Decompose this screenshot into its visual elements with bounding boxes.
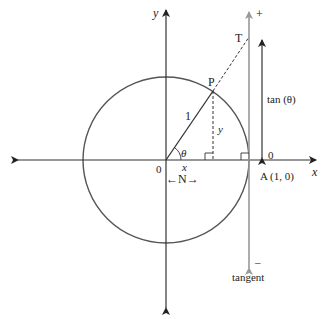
origin-label: 0 xyxy=(156,163,162,175)
tangent-name-label: tangent xyxy=(232,271,264,283)
right-angle-marker-a xyxy=(241,153,249,160)
y-segment-label: y xyxy=(217,123,223,135)
point-p-label: P xyxy=(208,75,215,89)
tangent-plus-label: + xyxy=(256,7,263,21)
x-axis-label: x xyxy=(311,165,318,179)
y-axis-label: y xyxy=(152,6,159,20)
angle-label: θ xyxy=(181,147,187,159)
tan-zero-label: 0 xyxy=(268,149,274,161)
radius-label: 1 xyxy=(185,109,191,123)
point-t-label: T xyxy=(235,31,243,45)
unit-circle-diagram: y x 0 P T 1 θ y x ←N→ A (1, 0) tan (θ) 0… xyxy=(0,0,326,319)
dashed-pt xyxy=(213,37,249,91)
right-angle-marker-n xyxy=(205,153,213,160)
radius-op xyxy=(166,91,213,160)
point-a-label: A (1, 0) xyxy=(260,170,294,183)
tan-label: tan (θ) xyxy=(267,93,296,106)
tangent-minus-label: – xyxy=(254,256,261,268)
n-label: ←N→ xyxy=(166,172,199,186)
